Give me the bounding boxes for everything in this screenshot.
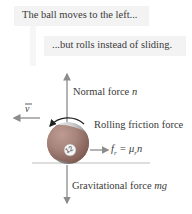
gravity-force-label: Gravitational force mg (72, 181, 167, 192)
velocity-symbol: v (25, 103, 29, 114)
gravity-symbol: mg (154, 180, 167, 191)
velocity-label: v (25, 104, 29, 114)
normal-force-label: Normal force n (73, 87, 137, 98)
friction-equation: fr = μrn (111, 144, 142, 157)
gravity-force-text: Gravitational force (72, 180, 154, 191)
billiard-ball (40, 122, 96, 164)
friction-normal-symbol: n (137, 143, 142, 154)
normal-force-symbol: n (132, 86, 137, 97)
friction-equals-mu: = μ (117, 143, 135, 154)
friction-force-label: Rolling friction force (94, 120, 183, 131)
normal-force-text: Normal force (73, 86, 132, 97)
